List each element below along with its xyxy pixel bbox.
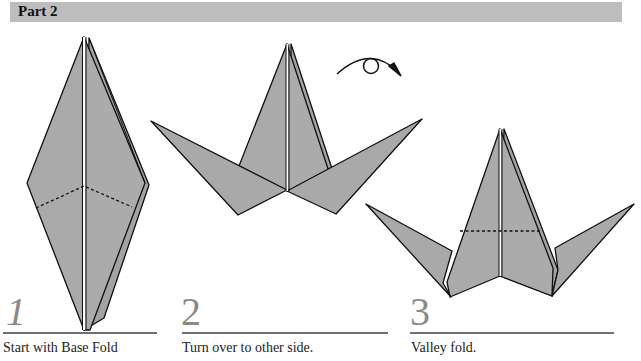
turn-over-arrow-icon	[337, 58, 401, 76]
step-1-caption: Start with Base Fold	[3, 340, 118, 356]
step-3-number: 3	[410, 292, 430, 332]
step-3-rule	[410, 332, 614, 334]
figure-2-wing-base	[151, 44, 422, 215]
step-1-number: 1	[6, 292, 26, 332]
step-3-caption: Valley fold.	[411, 340, 476, 356]
figure-3-valley-fold	[366, 129, 634, 297]
step-2-rule	[182, 332, 388, 334]
step-1-rule	[3, 332, 157, 334]
step-2-caption: Turn over to other side.	[182, 340, 313, 356]
origami-diagrams	[0, 0, 641, 361]
figure-1-kite-base	[27, 37, 149, 330]
step-2-number: 2	[181, 292, 201, 332]
